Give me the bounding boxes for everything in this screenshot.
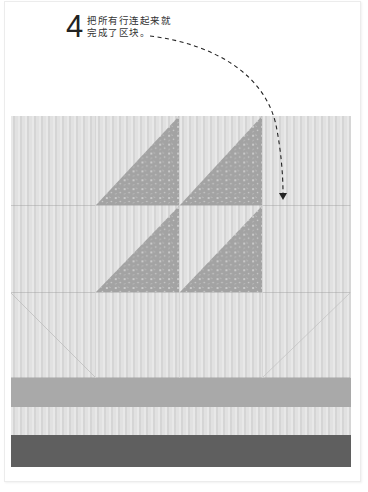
quilt-band-light xyxy=(11,407,351,435)
diagonal-seam-icon xyxy=(263,293,350,377)
quilt-cell-r2c3 xyxy=(180,206,263,293)
quilt-band-dark xyxy=(11,435,351,467)
quilt-cell-r1c1 xyxy=(11,116,96,206)
quilt-band-mid-gray xyxy=(11,378,351,407)
print-triangle-icon xyxy=(180,116,262,205)
quilt-cell-r3c1 xyxy=(11,293,96,378)
quilt-cell-r3c2 xyxy=(96,293,180,378)
print-triangle-icon xyxy=(180,206,262,292)
print-triangle-icon xyxy=(96,206,179,292)
step-text-line-2: 完成了区块。 xyxy=(87,27,171,39)
quilt-cell-r1c2 xyxy=(96,116,180,206)
quilt-cell-r2c2 xyxy=(96,206,180,293)
diagonal-seam-icon xyxy=(11,293,95,377)
print-triangle-icon xyxy=(96,116,179,205)
step-instruction: 4 把所有行连起来就 完成了区块。 xyxy=(66,13,171,41)
step-text-line-1: 把所有行连起来就 xyxy=(87,15,171,27)
step-number: 4 xyxy=(66,13,83,41)
quilt-cell-r2c1 xyxy=(11,206,96,293)
step-text: 把所有行连起来就 完成了区块。 xyxy=(87,15,171,39)
quilt-cell-r2c4 xyxy=(263,206,351,293)
quilt-cell-r3c4 xyxy=(263,293,351,378)
quilt-cell-r3c3 xyxy=(180,293,263,378)
quilt-cell-r1c4 xyxy=(263,116,351,206)
quilt-cell-r1c3 xyxy=(180,116,263,206)
quilt-block xyxy=(11,116,351,467)
